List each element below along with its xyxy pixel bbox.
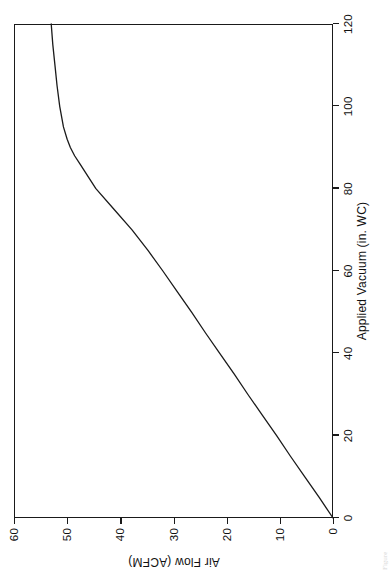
x-axis-title: Applied Vacuum (in. WC) xyxy=(355,202,369,340)
y-tick-mark xyxy=(14,518,15,524)
y-tick-mark xyxy=(120,518,121,524)
x-tick-mark xyxy=(333,352,339,353)
y-tick-label: 10 xyxy=(274,528,286,541)
x-tick-mark xyxy=(333,434,339,435)
x-tick-mark xyxy=(333,187,339,188)
x-tick-label: 0 xyxy=(342,515,354,522)
y-tick-mark xyxy=(333,518,334,524)
x-tick-label: 20 xyxy=(342,429,354,442)
y-tick-label: 20 xyxy=(221,528,233,541)
x-tick-mark xyxy=(333,270,339,271)
y-tick-label: 0 xyxy=(327,528,339,535)
data-series-line xyxy=(14,24,333,518)
x-tick-label: 80 xyxy=(342,182,354,195)
y-tick-label: 40 xyxy=(114,528,126,541)
y-tick-mark xyxy=(227,518,228,524)
x-tick-mark xyxy=(333,23,339,24)
x-tick-label: 100 xyxy=(342,96,354,116)
y-tick-mark xyxy=(174,518,175,524)
y-tick-label: 30 xyxy=(168,528,180,541)
figure-rotator: 020406080100120 0102030405060 Applied Va… xyxy=(0,0,390,576)
y-tick-mark xyxy=(67,518,68,524)
x-tick-mark xyxy=(333,105,339,106)
y-axis-title: Air Flow (ACFM) xyxy=(128,555,220,569)
caption-fragment: Figure xyxy=(381,300,390,570)
chart-canvas: 020406080100120 0102030405060 Applied Va… xyxy=(0,0,390,576)
y-tick-label: 50 xyxy=(61,528,73,541)
x-tick-label: 120 xyxy=(342,14,354,34)
y-tick-mark xyxy=(280,518,281,524)
y-tick-label: 60 xyxy=(8,528,20,541)
x-tick-label: 40 xyxy=(342,347,354,360)
x-tick-label: 60 xyxy=(342,264,354,277)
